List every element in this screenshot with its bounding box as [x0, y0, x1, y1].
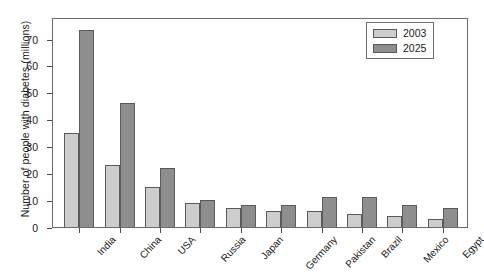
- bar-group: [307, 19, 337, 227]
- bar-china-2025[interactable]: [120, 103, 135, 227]
- bar-brazil-2025[interactable]: [362, 197, 377, 227]
- x-label-usa: USA: [176, 234, 198, 257]
- bar-germany-2025[interactable]: [281, 205, 296, 227]
- legend-item-2003[interactable]: 2003: [373, 27, 426, 39]
- legend-item-2025[interactable]: 2025: [373, 42, 426, 54]
- bar-pakistan-2003[interactable]: [307, 211, 322, 227]
- bar-group: [185, 19, 215, 227]
- bar-group: [145, 19, 175, 227]
- legend-label: 2003: [403, 27, 426, 39]
- y-tick-label: 20: [26, 168, 38, 180]
- bar-egypt-2003[interactable]: [428, 219, 443, 227]
- x-label-mexico: Mexico: [421, 234, 451, 265]
- x-label-brazil: Brazil: [379, 234, 404, 260]
- bar-india-2025[interactable]: [79, 30, 94, 227]
- x-label-russia: Russia: [219, 234, 248, 264]
- y-tick-label: 30: [26, 141, 38, 153]
- bar-germany-2003[interactable]: [266, 211, 281, 227]
- x-label-china: China: [137, 234, 163, 261]
- bar-japan-2025[interactable]: [241, 205, 256, 227]
- bar-group: [226, 19, 256, 227]
- diabetes-bar-chart: Number of people with diabetes (millions…: [0, 0, 484, 280]
- chart-legend: 20032025: [366, 22, 434, 59]
- y-tick-label: 60: [26, 60, 38, 72]
- x-label-japan: Japan: [258, 234, 285, 261]
- bar-group: [105, 19, 135, 227]
- bar-russia-2003[interactable]: [185, 203, 200, 227]
- x-label-germany: Germany: [303, 234, 339, 272]
- x-axis-category-labels: IndiaChinaUSARussiaJapanGermanyPakistanB…: [52, 232, 468, 280]
- legend-swatch-icon: [373, 29, 397, 38]
- legend-label: 2025: [403, 42, 426, 54]
- y-tick-label: 50: [26, 87, 38, 99]
- bar-russia-2025[interactable]: [200, 200, 215, 227]
- y-tick-label: 10: [26, 195, 38, 207]
- bar-china-2003[interactable]: [105, 165, 120, 227]
- x-label-egypt: Egypt: [460, 234, 484, 260]
- bar-india-2003[interactable]: [64, 133, 79, 227]
- bar-pakistan-2025[interactable]: [322, 197, 337, 227]
- y-tick-label: 70: [26, 34, 38, 46]
- bar-egypt-2025[interactable]: [443, 208, 458, 227]
- bar-group: [64, 19, 94, 227]
- x-label-india: India: [95, 234, 118, 257]
- bar-usa-2025[interactable]: [160, 168, 175, 227]
- x-label-pakistan: Pakistan: [343, 234, 377, 270]
- legend-swatch-icon: [373, 44, 397, 53]
- y-tick-label: 0: [32, 222, 38, 234]
- y-tick-label: 40: [26, 114, 38, 126]
- bar-brazil-2003[interactable]: [347, 214, 362, 227]
- bar-japan-2003[interactable]: [226, 208, 241, 227]
- bar-usa-2003[interactable]: [145, 187, 160, 227]
- bar-group: [266, 19, 296, 227]
- bar-mexico-2003[interactable]: [387, 216, 402, 227]
- y-axis-tick-labels: 010203040506070: [0, 0, 46, 280]
- bar-mexico-2025[interactable]: [402, 205, 417, 227]
